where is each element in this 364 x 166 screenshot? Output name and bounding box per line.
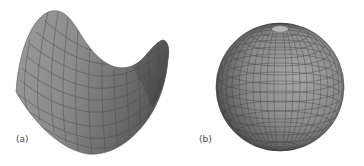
sphere-pole-cap xyxy=(272,26,288,32)
figure-graphics xyxy=(0,0,364,166)
saddle-surface xyxy=(16,11,169,154)
figure: (a) (b) xyxy=(0,0,364,166)
panel-label-b: (b) xyxy=(199,134,212,144)
panel-label-a: (a) xyxy=(16,134,29,144)
sphere xyxy=(216,23,344,152)
